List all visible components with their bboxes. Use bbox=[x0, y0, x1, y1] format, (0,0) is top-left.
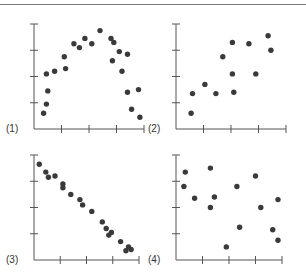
data-point bbox=[37, 162, 42, 167]
data-point bbox=[52, 69, 57, 74]
data-point bbox=[258, 205, 263, 210]
data-point bbox=[41, 111, 46, 116]
data-point bbox=[44, 71, 49, 76]
data-point bbox=[270, 227, 275, 232]
data-point bbox=[181, 184, 186, 189]
data-point bbox=[109, 230, 114, 235]
data-point bbox=[253, 71, 258, 76]
data-point bbox=[213, 91, 218, 96]
data-point bbox=[208, 165, 213, 170]
data-point bbox=[111, 40, 116, 45]
data-point bbox=[192, 196, 197, 201]
data-point bbox=[63, 66, 68, 71]
data-point bbox=[44, 101, 49, 106]
data-point bbox=[253, 173, 258, 178]
data-point bbox=[43, 169, 48, 174]
panel-label: (3) bbox=[6, 254, 18, 265]
data-point bbox=[68, 192, 73, 197]
data-point bbox=[82, 36, 87, 41]
data-point bbox=[110, 58, 115, 63]
data-point bbox=[265, 33, 270, 38]
data-point bbox=[237, 225, 242, 230]
data-point bbox=[202, 82, 207, 87]
panel-label: (4) bbox=[148, 254, 160, 265]
panel-label: (1) bbox=[6, 123, 18, 134]
data-point bbox=[137, 115, 142, 120]
data-point bbox=[104, 226, 109, 231]
data-point bbox=[220, 54, 225, 59]
data-point bbox=[100, 219, 105, 224]
scatter-panel-3: (3) bbox=[6, 155, 139, 265]
data-point bbox=[275, 197, 280, 202]
data-point bbox=[60, 185, 65, 190]
data-point bbox=[97, 28, 102, 33]
data-point bbox=[183, 169, 188, 174]
data-point bbox=[118, 239, 123, 244]
data-point bbox=[125, 90, 130, 95]
data-point bbox=[212, 194, 217, 199]
data-point bbox=[125, 52, 130, 57]
data-point bbox=[45, 88, 50, 93]
data-point bbox=[188, 111, 193, 116]
data-point bbox=[208, 205, 213, 210]
data-point bbox=[119, 69, 124, 74]
data-point bbox=[52, 173, 57, 178]
scatter-panel-4: (4) bbox=[148, 155, 282, 265]
data-point bbox=[230, 40, 235, 45]
data-point bbox=[77, 45, 82, 50]
data-point bbox=[117, 49, 122, 54]
data-point bbox=[268, 48, 273, 53]
panel-label: (2) bbox=[148, 123, 160, 134]
data-point bbox=[89, 41, 94, 46]
data-point bbox=[246, 41, 251, 46]
data-point bbox=[190, 91, 195, 96]
data-point bbox=[136, 87, 141, 92]
scatter-plots-figure: (1)(2)(3)(4) bbox=[0, 0, 306, 280]
data-point bbox=[71, 41, 76, 46]
data-point bbox=[230, 71, 235, 76]
data-point bbox=[129, 107, 134, 112]
data-point bbox=[224, 244, 229, 249]
data-point bbox=[62, 54, 67, 59]
data-point bbox=[234, 184, 239, 189]
data-point bbox=[80, 202, 85, 207]
data-point bbox=[275, 238, 280, 243]
scatter-panel-2: (2) bbox=[148, 24, 286, 134]
data-point bbox=[89, 209, 94, 214]
scatter-panel-1: (1) bbox=[6, 24, 144, 134]
data-point bbox=[77, 197, 82, 202]
data-point bbox=[231, 90, 236, 95]
data-point bbox=[128, 247, 133, 252]
data-point bbox=[46, 175, 51, 180]
